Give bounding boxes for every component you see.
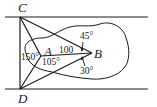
angle-label-45: 45° [80, 32, 93, 42]
island-outline [25, 23, 129, 79]
angle-label-150: 150° [21, 53, 39, 63]
angle-label-105: 105° [42, 58, 60, 68]
point-label-D: D [18, 92, 27, 105]
point-label-C: C [18, 1, 27, 14]
arrow-45-head [81, 48, 84, 52]
point-label-B: B [94, 47, 102, 60]
geometry-diagram: C D A B 100 150° 105° 45° 30° [0, 0, 157, 107]
distance-label-AB: 100 [59, 46, 73, 56]
angle-label-30: 30° [80, 67, 93, 77]
